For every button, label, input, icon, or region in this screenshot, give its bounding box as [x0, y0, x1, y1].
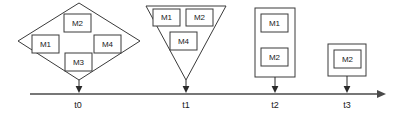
axis-tick-label-t3: t3 — [343, 100, 351, 110]
module-box-m2[interactable]: M2 — [261, 48, 288, 66]
module-box-m1[interactable]: M1 — [153, 9, 180, 26]
module-label: M1 — [161, 13, 173, 22]
module-label: M1 — [40, 40, 52, 49]
connector-arrow-t3 — [344, 76, 351, 93]
module-label: M2 — [194, 13, 206, 22]
module-label: M1 — [269, 19, 281, 28]
group-t0[interactable]: M1 M2 M3 M4 — [18, 3, 140, 93]
axis-arrowhead — [377, 90, 386, 98]
diagram-canvas: M1 M2 M3 M4 M1 — [0, 0, 405, 119]
module-box-m2[interactable]: M2 — [334, 50, 361, 68]
module-label: M2 — [269, 53, 281, 62]
module-timeline-diagram: M1 M2 M3 M4 M1 — [0, 0, 405, 119]
group-t1[interactable]: M1 M2 M4 — [146, 6, 226, 93]
connector-arrow-t2 — [272, 77, 279, 93]
module-box-m2[interactable]: M2 — [186, 9, 213, 26]
module-box-m4[interactable]: M4 — [94, 35, 121, 53]
module-box-m3[interactable]: M3 — [65, 53, 92, 71]
module-box-m1[interactable]: M1 — [32, 35, 59, 53]
axis-tick-label-t1: t1 — [182, 100, 190, 110]
module-box-m4[interactable]: M4 — [170, 32, 197, 50]
module-box-m1[interactable]: M1 — [261, 14, 288, 32]
module-label: M4 — [102, 40, 114, 49]
axis-tick-label-t2: t2 — [271, 100, 279, 110]
connector-arrow-t1 — [183, 80, 190, 93]
module-label: M2 — [342, 55, 354, 64]
module-label: M4 — [178, 37, 190, 46]
module-box-m2[interactable]: M2 — [64, 14, 91, 32]
group-t3[interactable]: M2 — [328, 44, 366, 93]
connector-arrow-t0 — [76, 80, 83, 93]
axis-tick-label-t0: t0 — [74, 100, 82, 110]
module-label: M2 — [72, 19, 84, 28]
timeline-axis — [30, 90, 386, 98]
group-t2[interactable]: M1 M2 — [255, 8, 295, 93]
module-label: M3 — [73, 58, 85, 67]
